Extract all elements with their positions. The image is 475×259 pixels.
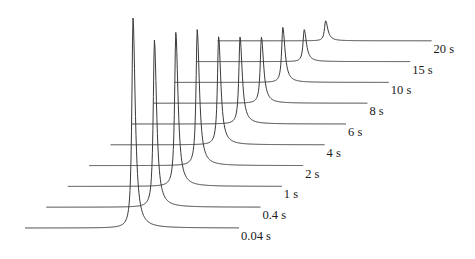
- trace-10-s: [175, 27, 389, 82]
- trace-label: 0.4 s: [262, 208, 286, 222]
- trace-0-04-s: [25, 18, 239, 228]
- trace-15-s: [196, 30, 410, 62]
- traces-group: [25, 18, 432, 228]
- trace-label: 10 s: [391, 83, 412, 97]
- trace-label: 6 s: [348, 125, 362, 139]
- trace-label: 8 s: [369, 104, 383, 118]
- trace-6-s: [132, 37, 346, 124]
- trace-label: 2 s: [305, 167, 319, 181]
- trace-20-s: [218, 21, 432, 41]
- trace-label: 1 s: [284, 187, 298, 201]
- trace-label: 20 s: [434, 42, 455, 56]
- trace-4-s: [111, 37, 325, 145]
- waterfall-chart: 0.04 s0.4 s1 s2 s4 s6 s8 s10 s15 s20 s: [0, 0, 475, 259]
- trace-label: 4 s: [327, 146, 341, 160]
- trace-label: 15 s: [412, 63, 433, 77]
- labels-group: 0.04 s0.4 s1 s2 s4 s6 s8 s10 s15 s20 s: [241, 42, 454, 243]
- trace-8-s: [153, 37, 367, 103]
- trace-label: 0.04 s: [241, 229, 271, 243]
- trace-1-s: [68, 32, 282, 186]
